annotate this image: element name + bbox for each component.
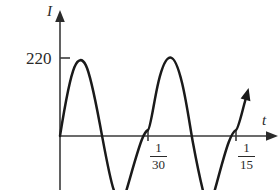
- t-axis-arrowhead: [266, 131, 278, 141]
- fraction-denominator: 30: [150, 158, 167, 172]
- fraction-numerator: 1: [238, 141, 255, 155]
- i-axis-label: I: [47, 4, 52, 19]
- t-axis-label: t: [262, 113, 266, 128]
- time-label-1-30: 1 30: [150, 141, 167, 172]
- curve-continuation-arrowhead: [241, 88, 251, 101]
- i-axis-arrowhead: [55, 10, 65, 22]
- amplitude-label-220: 220: [26, 50, 52, 67]
- sine-graph-figure: I t 220 1 30 1 15: [0, 0, 280, 190]
- fraction-denominator: 15: [238, 158, 255, 172]
- time-label-1-15: 1 15: [238, 141, 255, 172]
- fraction-numerator: 1: [150, 141, 167, 155]
